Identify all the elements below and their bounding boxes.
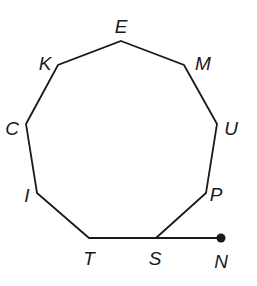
label-s: S: [149, 248, 162, 269]
nonagon-diagram: E M U P S T I C K N: [0, 0, 257, 286]
label-i: I: [24, 185, 30, 206]
label-p: P: [210, 184, 223, 205]
vertex-labels: E M U P S T I C K N: [5, 16, 238, 272]
label-c: C: [5, 118, 19, 139]
diagram-canvas: E M U P S T I C K N: [0, 0, 257, 286]
nonagon-shape: [26, 41, 217, 238]
label-m: M: [195, 53, 211, 74]
label-u: U: [224, 118, 238, 139]
label-t: T: [83, 248, 96, 269]
label-e: E: [115, 16, 128, 37]
label-k: K: [39, 53, 53, 74]
label-n: N: [214, 251, 228, 272]
point-n-dot: [217, 234, 226, 243]
